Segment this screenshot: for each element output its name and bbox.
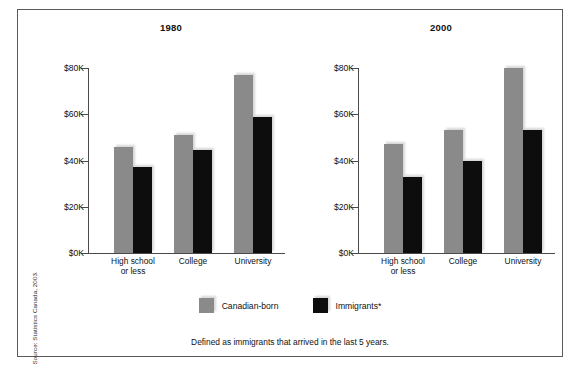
y-axis-line [88, 68, 89, 254]
bar-group: College [174, 68, 212, 253]
bar-immigrants [193, 150, 212, 253]
y-axis-line [358, 68, 359, 254]
bar-canadian-born [384, 144, 403, 253]
y-axis-tick-label: $60K [64, 109, 84, 119]
legend-item-canadian-born: Canadian-born [199, 298, 279, 313]
panel-title: 2000 [310, 22, 572, 33]
bar-immigrants [463, 161, 482, 254]
bar-canadian-born [234, 75, 253, 253]
bar-canadian-born [504, 68, 523, 253]
legend-swatch-icon [313, 298, 328, 313]
bar-immigrants [253, 117, 272, 253]
legend-label: Canadian-born [222, 301, 279, 311]
y-axis-tick-label: $40K [64, 156, 84, 166]
bar-canadian-born [114, 147, 133, 253]
y-axis-tick-label: $60K [334, 109, 354, 119]
chart-figure: Source: Statistics Canada, 2003. 1980 $8… [0, 0, 575, 368]
x-axis-category-label: University [235, 256, 272, 266]
legend-label: Immigrants* [336, 301, 382, 311]
bar-canadian-born [444, 130, 463, 253]
x-axis-line [358, 253, 555, 254]
panel-title: 1980 [40, 22, 302, 33]
legend-swatch-icon [199, 298, 214, 313]
bar-group: High schoolor less [384, 68, 422, 253]
bar-immigrants [133, 167, 152, 253]
chart-panel-2000: 2000 $80K$60K$40K$20K$0K High schoolor l… [310, 22, 572, 290]
x-axis-category-label: High schoolor less [111, 256, 155, 276]
y-axis-tick-label: $0K [69, 248, 84, 258]
y-axis-tick-label: $0K [339, 248, 354, 258]
y-axis-tick-label: $40K [334, 156, 354, 166]
plot-area-2000: $80K$60K$40K$20K$0K High schoolor lessCo… [358, 68, 554, 254]
x-axis-category-label: College [449, 256, 477, 266]
chart-panel-1980: 1980 $80K$60K$40K$20K$0K High schoolor l… [40, 22, 302, 290]
y-axis-tick-label: $20K [334, 202, 354, 212]
x-axis-category-label: High schoolor less [381, 256, 425, 276]
bar-immigrants [403, 177, 422, 253]
bar-group: College [444, 68, 482, 253]
bar-canadian-born [174, 135, 193, 253]
y-axis-tick-label: $80K [64, 63, 84, 73]
bar-group: University [234, 68, 272, 253]
x-axis-category-label: College [179, 256, 207, 266]
bar-group: University [504, 68, 542, 253]
chart-legend: Canadian-born Immigrants* [18, 298, 562, 313]
chart-footnote: Defined as immigrants that arrived in th… [18, 337, 562, 347]
legend-item-immigrants: Immigrants* [313, 298, 382, 313]
bar-group: High schoolor less [114, 68, 152, 253]
bar-immigrants [523, 130, 542, 253]
x-axis-category-label: University [505, 256, 542, 266]
figure-frame: Source: Statistics Canada, 2003. 1980 $8… [17, 9, 563, 357]
x-axis-line [88, 253, 285, 254]
plot-area-1980: $80K$60K$40K$20K$0K High schoolor lessCo… [88, 68, 284, 254]
y-axis-tick-label: $80K [334, 63, 354, 73]
y-axis-tick-label: $20K [64, 202, 84, 212]
